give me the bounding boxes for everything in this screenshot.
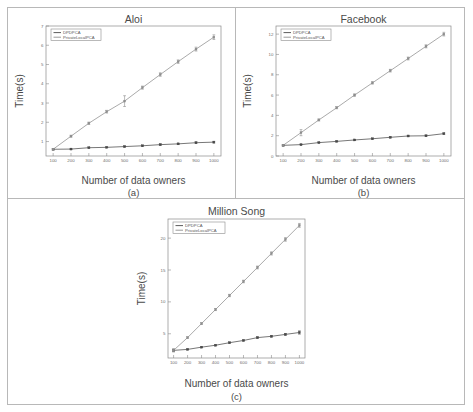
chart-panel-c: Million Song5101520100200300400500600700… [8,199,465,404]
y-tick-label: 5 [163,331,166,336]
chart-title-c: Million Song [208,205,265,217]
x-tick-label: 800 [174,158,182,163]
x-tick-label: 1000 [209,158,219,163]
figure-frame: Aloi123456710020030040050060070080090010… [7,7,465,405]
x-tick-label: 900 [282,360,290,365]
y-tick-label: 4 [41,81,44,86]
x-tick-label: 300 [315,158,323,163]
x-tick-label: 300 [85,158,93,163]
x-tick-label: 100 [49,158,57,163]
panel-caption-b: (b) [358,187,370,198]
x-tick-label: 1000 [295,360,305,365]
chart-title-a: Aloi [125,13,143,25]
legend-b: DPDPCAPrivateLocalPCA [281,29,331,41]
y-tick-label: 6 [41,43,44,48]
y-tick-label: 20 [161,236,166,241]
x-tick-label: 400 [333,158,341,163]
x-tick-label: 200 [184,360,192,365]
x-tick-label: 300 [198,360,206,365]
x-axis-label-c: Number of data owners [185,378,289,389]
x-tick-label: 600 [369,158,377,163]
series-line-privatelocalpca [283,34,444,145]
y-tick-label: 12 [269,32,274,37]
x-tick-label: 500 [121,158,129,163]
x-tick-label: 200 [67,158,75,163]
x-tick-label: 1000 [439,158,449,163]
chart-panel-b: Facebook02468101210020030040050060070080… [236,8,465,198]
x-tick-label: 800 [268,360,276,365]
x-tick-label: 600 [139,158,147,163]
chart-svg-a: Aloi123456710020030040050060070080090010… [8,8,235,198]
y-tick-label: 2 [271,133,274,138]
y-axis-label-b: Time(s) [242,74,253,108]
legend-a: DPDPCAPrivateLocalPCA [51,29,101,41]
chart-panel-a: Aloi123456710020030040050060070080090010… [8,8,235,198]
x-tick-label: 400 [103,158,111,163]
y-axis-label-a: Time(s) [14,74,25,108]
x-tick-label: 500 [351,158,359,163]
x-tick-label: 700 [254,360,262,365]
x-tick-label: 900 [192,158,200,163]
x-tick-label: 700 [387,158,395,163]
legend-label: PrivateLocalPCA [185,228,217,233]
y-tick-label: 8 [271,72,274,77]
x-tick-label: 600 [240,360,248,365]
y-tick-label: 6 [271,93,274,98]
y-tick-label: 3 [41,101,44,106]
x-tick-label: 100 [279,158,287,163]
x-axis-label-b: Number of data owners [312,175,416,186]
y-tick-label: 1 [41,139,44,144]
chart-title-b: Facebook [340,13,387,25]
series-line-privatelocalpca [174,225,300,350]
x-tick-label: 100 [170,360,178,365]
x-tick-label: 200 [297,158,305,163]
legend-label: PrivateLocalPCA [63,35,95,40]
series-line-dpdpca [174,332,300,350]
legend-label: PrivateLocalPCA [293,35,325,40]
x-tick-label: 800 [404,158,412,163]
panel-caption-c: (c) [231,391,242,402]
y-tick-label: 7 [41,24,44,29]
series-line-dpdpca [283,134,444,146]
chart-svg-b: Facebook02468101210020030040050060070080… [236,8,465,198]
y-axis-label-c: Time(s) [136,272,147,306]
panel-caption-a: (a) [128,187,140,198]
legend-c: DPDPCAPrivateLocalPCA [173,222,225,234]
chart-svg-c: Million Song5101520100200300400500600700… [8,199,465,404]
y-tick-label: 0 [271,154,274,159]
x-tick-label: 400 [212,360,220,365]
x-tick-label: 500 [226,360,234,365]
series-line-privatelocalpca [53,37,214,149]
y-tick-label: 10 [161,299,166,304]
x-tick-label: 900 [422,158,430,163]
y-tick-label: 5 [41,62,44,67]
x-axis-label-a: Number of data owners [82,175,186,186]
y-tick-label: 15 [161,268,166,273]
y-tick-label: 2 [41,120,44,125]
y-tick-label: 4 [271,113,274,118]
x-tick-label: 700 [157,158,165,163]
plot-area-a [46,26,221,156]
series-line-dpdpca [53,142,214,149]
y-tick-label: 10 [269,52,274,57]
